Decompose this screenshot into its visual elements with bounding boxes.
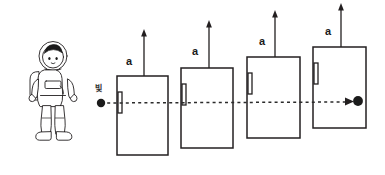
elevator-box-3 — [247, 10, 300, 138]
box-2-acceleration-arrow — [206, 20, 212, 68]
box-2-acceleration-label: a — [192, 46, 198, 57]
light-source-dot — [97, 99, 105, 107]
light-label: 빛 — [95, 85, 102, 93]
box-4-acceleration-label: a — [325, 26, 331, 37]
box-1-acceleration-arrow — [141, 29, 147, 76]
box-4-outline — [313, 47, 366, 128]
physics-diagram: 빛 a a a a — [0, 0, 385, 175]
box-3-acceleration-arrow — [272, 10, 278, 57]
elevator-box-1 — [117, 29, 168, 155]
light-endpoint-dot — [353, 96, 363, 106]
box-3-handle — [248, 73, 252, 94]
box-3-outline — [247, 57, 300, 138]
box-2-handle — [182, 84, 186, 105]
elevator-box-2 — [181, 20, 233, 148]
box-1-outline — [117, 76, 168, 155]
box-4-acceleration-arrow — [338, 3, 344, 47]
box-4-handle — [314, 63, 318, 84]
box-3-acceleration-label: a — [259, 36, 265, 47]
box-1-acceleration-label: a — [126, 56, 132, 67]
elevator-box-4 — [313, 3, 366, 128]
box-2-outline — [181, 68, 233, 148]
astronaut-icon — [29, 42, 77, 141]
